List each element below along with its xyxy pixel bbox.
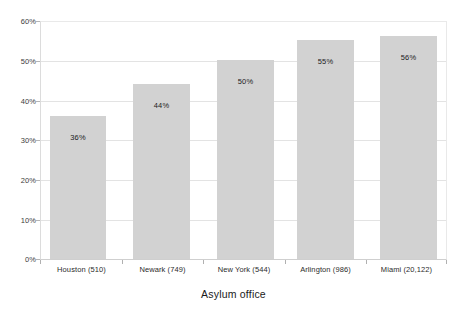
x-axis-tick-mark-2 [203, 260, 204, 264]
bar-value-miami: 56% [380, 53, 437, 62]
y-axis-tick-label-30: 30% [4, 136, 36, 145]
x-axis-label-new-york: New York (544) [203, 265, 285, 274]
x-axis-tick-mark-5 [446, 260, 447, 264]
bar-value-houston: 36% [50, 133, 106, 142]
bar-newark[interactable]: 44% [133, 84, 190, 259]
x-axis-label-arlington: Arlington (986) [285, 265, 366, 274]
bar-value-new-york: 50% [217, 77, 274, 86]
bar-chart: 60% 50% 40% 30% 20% 10% 0% 36% 44% 50% [0, 0, 467, 315]
y-axis-tick-label-0: 0% [4, 255, 36, 264]
y-axis-tick-label-50: 50% [4, 57, 36, 66]
x-axis-title: Asylum office [0, 288, 467, 300]
x-axis-label-miami: Miami (20,122) [366, 265, 447, 274]
bar-value-newark: 44% [133, 101, 190, 110]
x-axis-tick-mark-0 [40, 260, 41, 264]
bars-layer: 36% 44% 50% 55% 56% [41, 22, 446, 259]
x-axis-tick-mark-4 [366, 260, 367, 264]
y-axis-tick-label-10: 10% [4, 216, 36, 225]
plot-area: 36% 44% 50% 55% 56% [40, 21, 447, 260]
bar-houston[interactable]: 36% [50, 116, 106, 259]
y-axis-tick-label-40: 40% [4, 97, 36, 106]
bar-arlington[interactable]: 55% [297, 40, 354, 259]
bar-miami[interactable]: 56% [380, 36, 437, 259]
bar-value-arlington: 55% [297, 57, 354, 66]
x-axis-tick-mark-1 [122, 260, 123, 264]
x-axis-tick-mark-3 [285, 260, 286, 264]
y-axis-tick-label-60: 60% [4, 17, 36, 26]
bar-new-york[interactable]: 50% [217, 60, 274, 259]
x-axis-label-newark: Newark (749) [122, 265, 203, 274]
x-axis-label-houston: Houston (510) [41, 265, 122, 274]
y-axis-tick-label-20: 20% [4, 176, 36, 185]
